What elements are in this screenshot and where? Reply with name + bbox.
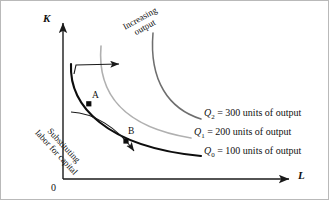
curve-label-q1: Q1 = 200 units of output	[194, 127, 291, 140]
increasing-output-arrow	[74, 64, 119, 74]
curve-subscript-q1: 1	[201, 132, 205, 140]
curve-value-q1: = 200 units of output	[207, 126, 291, 137]
point-marker-b	[123, 138, 128, 143]
isoquant-curves	[71, 33, 201, 156]
y-axis-label: K	[43, 13, 50, 24]
x-axis-label: L	[298, 170, 305, 181]
curve-value-q2: = 300 units of output	[217, 107, 301, 118]
curve-q1	[101, 46, 191, 138]
curve-q2	[152, 33, 201, 119]
origin-label: 0	[51, 183, 56, 193]
substituting-arrow	[71, 112, 134, 151]
curve-value-q0: = 100 units of output	[217, 145, 301, 156]
curve-subscript-q0: 0	[211, 151, 215, 159]
curve-label-q0: Q0 = 100 units of output	[204, 146, 301, 159]
point-marker-a	[86, 101, 91, 106]
curve-subscript-q2: 2	[211, 113, 215, 121]
curve-label-q2: Q2 = 300 units of output	[204, 108, 301, 121]
point-label-b: B	[128, 127, 134, 137]
point-label-a: A	[92, 91, 99, 101]
isoquant-diagram: K L 0 A B Q2 = 300 units of output Q1 = …	[0, 0, 329, 200]
diagram-canvas	[1, 1, 329, 200]
